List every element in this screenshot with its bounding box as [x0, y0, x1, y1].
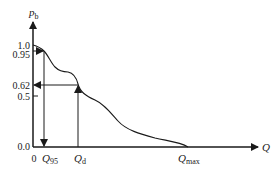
flow-duration-chart: pb 1.0 0.95 0.62 0.5 0.0 0 Q95 Qd Qmax Q	[0, 0, 280, 169]
tick-label-0-0: 0.0	[18, 141, 31, 152]
x-axis-label: Q	[262, 141, 270, 153]
tick-label-0-62: 0.62	[13, 80, 31, 91]
tick-label-0-5: 0.5	[18, 91, 31, 102]
tick-label-0-95: 0.95	[13, 49, 31, 60]
origin-label: 0	[32, 153, 37, 164]
qd-label: Qd	[74, 152, 86, 166]
q95-label: Q95	[42, 152, 58, 166]
duration-curve	[33, 45, 188, 147]
qmax-label: Qmax	[178, 152, 200, 166]
y-axis-label: pb	[28, 6, 39, 21]
